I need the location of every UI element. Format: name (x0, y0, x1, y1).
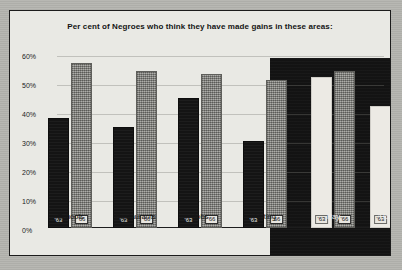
page-background: Per cent of Negroes who think they have … (0, 0, 402, 270)
bar-group-housing: '63'66'Housing (370, 36, 391, 228)
bar-jobs-63[interactable]: '63 (178, 98, 199, 229)
bars-container: '63'66 (243, 54, 288, 228)
bar-group-pay: '63'66Pay (311, 36, 356, 228)
category-label-pay: Pay (311, 212, 356, 221)
bar-group-jobs: '63'66Jobs (178, 36, 223, 228)
bars-container: '63'66 (48, 54, 93, 228)
plot-area: 60%50%40%30%20%10%0%'63'66Schools'63'66R… (10, 11, 390, 255)
bar-group-restaurants: '63'66Restaurants (113, 36, 158, 228)
bar-group-schools: '63'66Schools (48, 36, 93, 228)
category-label-schools: Schools (48, 212, 93, 221)
bars-container: '63'66 (178, 54, 223, 228)
bar-voting-66[interactable]: '66 (266, 80, 287, 228)
bars-container: '63'66 (113, 54, 158, 228)
category-label-restaurants: Restaurants (113, 212, 158, 221)
bars-container: '63'66 (311, 54, 356, 228)
bar-jobs-66[interactable]: '66 (201, 74, 222, 228)
category-label-jobs: Jobs (178, 212, 223, 221)
bars-container: '63'66 (370, 54, 391, 228)
bar-schools-66[interactable]: '66 (71, 63, 92, 228)
category-label-housing: 'Housing (370, 212, 391, 221)
chart-frame: Per cent of Negroes who think they have … (9, 10, 391, 256)
bar-housing-63[interactable]: '63 (370, 106, 391, 228)
bar-pay-66[interactable]: '66 (334, 71, 355, 228)
bar-pay-63[interactable]: '63 (311, 77, 332, 228)
bar-group-voting: '63'66Voting (243, 36, 288, 228)
bar-restaurants-66[interactable]: '66 (136, 71, 157, 228)
category-label-voting: Voting (243, 212, 288, 221)
